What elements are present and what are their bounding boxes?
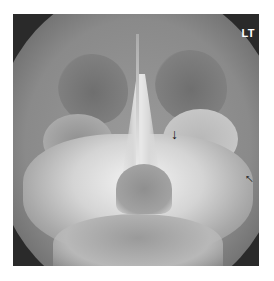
right-orbit [58, 54, 128, 124]
oral-cavity [116, 164, 172, 214]
nasal-septum [136, 34, 139, 184]
mandible [53, 214, 223, 266]
arrow-down-icon: ↓ [171, 127, 178, 141]
radiograph-image: LT ↓ ↑ [13, 14, 259, 266]
orientation-label: LT [241, 27, 255, 39]
